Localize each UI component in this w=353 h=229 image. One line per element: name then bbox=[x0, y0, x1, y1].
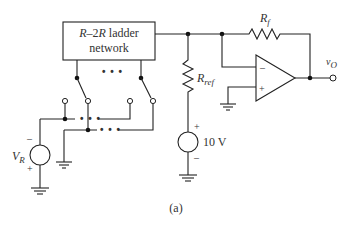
ladder-label-line2: network bbox=[89, 41, 128, 55]
svg-text:vO: vO bbox=[326, 56, 337, 70]
svg-text:–: – bbox=[193, 152, 200, 163]
input-voltage-source: – + VR bbox=[12, 119, 50, 194]
svg-text:+: + bbox=[27, 163, 33, 174]
svg-text:10 V: 10 V bbox=[203, 135, 227, 149]
reference-voltage-source: + – 10 V bbox=[178, 121, 227, 181]
svg-text:• • •: • • • bbox=[80, 113, 101, 124]
svg-text:Rf: Rf bbox=[259, 11, 271, 27]
svg-text:–: – bbox=[26, 133, 33, 144]
svg-text:• • •: • • • bbox=[102, 66, 123, 77]
svg-text:VR: VR bbox=[12, 149, 25, 165]
switch-array: • • • • • • • • • bbox=[40, 60, 156, 168]
figure-caption: (a) bbox=[169, 201, 182, 215]
svg-text:+: + bbox=[194, 121, 200, 132]
dac-circuit-diagram: R–2R ladder network Rf – + vO Rref bbox=[0, 0, 353, 229]
svg-text:• • •: • • • bbox=[100, 124, 121, 135]
summing-node-wires bbox=[155, 32, 256, 67]
ladder-network-block: R–2R ladder network bbox=[63, 22, 155, 60]
output-terminal: vO bbox=[295, 56, 337, 81]
reference-resistor: Rref bbox=[183, 34, 216, 132]
svg-text:+: + bbox=[259, 83, 265, 94]
svg-text:Rref: Rref bbox=[196, 71, 216, 87]
ladder-label-line1: R–2R ladder bbox=[78, 26, 139, 40]
svg-text:–: – bbox=[259, 62, 266, 73]
op-amp: – + bbox=[220, 55, 295, 110]
